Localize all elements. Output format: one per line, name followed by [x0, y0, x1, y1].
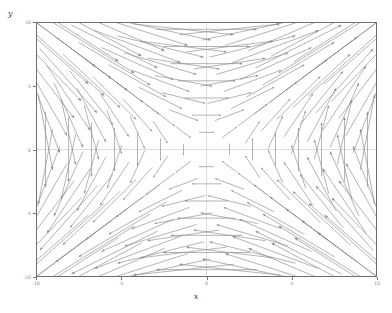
field-arrowhead — [219, 114, 221, 116]
x-tick-label: -5 — [119, 281, 124, 286]
field-arrow — [88, 254, 188, 276]
field-arrow — [277, 180, 320, 223]
y-tick-label: 10 — [6, 20, 31, 25]
y-tick-label: -10 — [6, 275, 31, 280]
field-arrow — [300, 174, 343, 227]
y-tick-label: 5 — [6, 83, 31, 88]
field-arrow — [309, 32, 376, 96]
field-arrowhead — [160, 159, 162, 161]
field-arrow — [37, 23, 95, 67]
field-arrow — [272, 23, 372, 56]
field-arrow — [346, 164, 376, 239]
plot-frame — [36, 22, 377, 277]
x-tick-mark — [377, 277, 378, 280]
field-arrow — [146, 173, 175, 194]
field-arrow — [93, 180, 136, 223]
field-arrow — [240, 48, 311, 80]
field-arrowhead — [229, 144, 230, 145]
y-axis-label: y — [8, 9, 13, 18]
field-arrow — [279, 226, 365, 276]
field-arrowhead — [171, 234, 173, 236]
x-tick-label: 5 — [290, 281, 293, 286]
field-arrow — [49, 226, 135, 276]
field-arrow — [88, 23, 188, 45]
vector-field-figure: y 1050-5-10-10-50510 x — [0, 0, 392, 313]
field-arrow — [332, 26, 376, 101]
field-arrow — [102, 48, 173, 80]
x-tick-mark — [292, 277, 293, 280]
field-arrow — [176, 161, 190, 172]
field-arrowhead — [240, 62, 242, 64]
field-arrow — [102, 219, 173, 251]
vector-field-canvas — [37, 23, 376, 276]
field-arrow — [226, 23, 326, 45]
field-arrow — [279, 23, 365, 73]
field-arrowhead — [118, 261, 121, 264]
field-arrow — [332, 198, 376, 273]
y-tick-label: 0 — [6, 147, 31, 152]
y-tick-mark — [33, 150, 36, 151]
field-arrowhead — [201, 55, 204, 58]
field-arrowhead — [108, 75, 111, 78]
field-arrow — [139, 190, 182, 211]
field-arrow — [37, 203, 104, 267]
field-arrow — [37, 164, 67, 239]
field-arrow — [123, 168, 152, 200]
field-arrow — [261, 168, 290, 200]
field-arrowhead — [212, 132, 213, 133]
field-arrow — [37, 61, 67, 136]
field-arrow — [109, 65, 166, 97]
field-arrow — [176, 127, 190, 138]
field-arrowhead — [320, 123, 322, 125]
field-arrow — [238, 173, 267, 194]
field-arrow — [37, 26, 81, 101]
field-arrow — [42, 23, 142, 56]
field-arrow — [109, 202, 166, 234]
field-arrowhead — [192, 183, 194, 185]
field-arrowhead — [337, 135, 340, 138]
field-arrow — [42, 243, 142, 276]
x-tick-mark — [121, 277, 122, 280]
field-arrowhead — [199, 166, 200, 167]
field-arrow — [272, 243, 372, 276]
field-arrow — [231, 190, 274, 211]
field-arrow — [139, 87, 182, 108]
x-tick-label: 10 — [374, 281, 380, 286]
field-arrowhead — [92, 63, 95, 66]
field-arrow — [49, 23, 135, 73]
field-arrowhead — [293, 35, 296, 38]
field-arrow — [222, 127, 236, 138]
field-arrow — [226, 254, 326, 276]
y-tick-mark — [33, 86, 36, 87]
field-arrow — [247, 65, 304, 97]
field-arrowhead — [74, 162, 77, 165]
field-arrowhead — [252, 139, 254, 141]
field-arrowhead — [210, 241, 213, 244]
field-arrow — [70, 71, 113, 124]
field-arrow — [70, 174, 113, 227]
y-tick-mark — [33, 22, 36, 23]
field-arrow — [277, 77, 320, 120]
field-arrowhead — [183, 154, 184, 155]
x-axis-label: x — [0, 292, 392, 301]
x-tick-label: -10 — [32, 281, 40, 286]
x-tick-mark — [207, 277, 208, 280]
x-tick-label: 0 — [205, 281, 208, 286]
field-arrow — [300, 71, 343, 124]
field-arrow — [261, 99, 290, 131]
field-arrow — [222, 161, 236, 172]
y-tick-label: -5 — [6, 211, 31, 216]
field-arrow — [37, 198, 81, 273]
field-arrow — [318, 23, 376, 67]
field-arrow — [123, 99, 152, 131]
field-arrow — [231, 87, 274, 108]
field-arrowhead — [90, 174, 92, 176]
x-tick-mark — [36, 277, 37, 280]
field-arrow — [247, 202, 304, 234]
y-tick-mark — [33, 213, 36, 214]
field-arrow — [93, 77, 136, 120]
field-arrow — [240, 219, 311, 251]
field-arrow — [346, 61, 376, 136]
